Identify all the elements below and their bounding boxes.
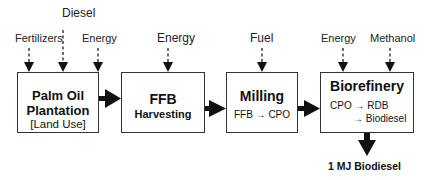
- input-label-fertilizers: Fertilizers: [15, 32, 63, 44]
- stage-sub: [Land Use]: [18, 118, 98, 130]
- stage-biorefinery: Biorefinery CPO → RDB → Biodiesel: [320, 72, 414, 133]
- stage-title-2: Plantation: [18, 103, 98, 118]
- input-label-energy-biorefinery: Energy: [321, 32, 356, 44]
- stage-title: Milling: [227, 88, 297, 104]
- stage-plantation: Palm Oil Plantation [Land Use]: [17, 72, 99, 133]
- stage-milling: Milling FFB → CPO: [226, 72, 298, 133]
- stage-title: Palm Oil: [18, 88, 98, 103]
- input-label-methanol: Methanol: [370, 32, 415, 44]
- input-label-diesel: Diesel: [62, 6, 95, 20]
- stage-title: Biorefinery: [321, 78, 413, 94]
- stage-sub: FFB → CPO: [227, 109, 297, 120]
- input-label-fuel: Fuel: [250, 31, 273, 45]
- stage-sub: CPO → RDB: [330, 100, 388, 111]
- output-label: 1 MJ Biodiesel: [328, 160, 401, 172]
- stage-sub: Harvesting: [122, 108, 204, 120]
- stage-sub-2: → Biodiesel: [353, 113, 406, 124]
- input-label-energy-harvesting: Energy: [157, 31, 195, 45]
- stage-harvesting: FFB Harvesting: [121, 72, 205, 133]
- input-label-energy-plantation: Energy: [82, 32, 117, 44]
- stage-title: FFB: [122, 91, 204, 107]
